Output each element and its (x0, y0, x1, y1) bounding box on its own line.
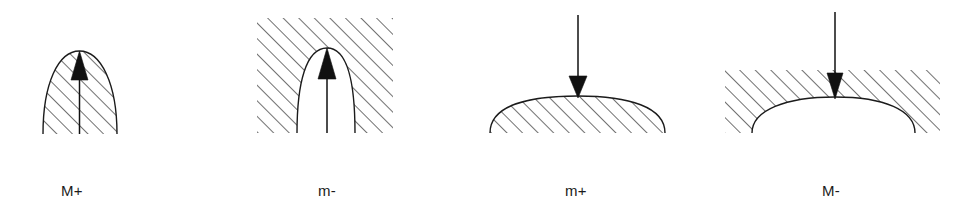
panel-label-m-minus: m- (318, 183, 336, 198)
panel-label-M-plus: M+ (61, 183, 83, 198)
panel-m-minus-graphic (250, 12, 400, 140)
normal-arrow-head-up-icon (318, 48, 336, 79)
diagram-canvas: M+ m- m+ M- (0, 0, 980, 223)
panel-label-M-minus: M- (822, 183, 840, 198)
panel-M-minus-graphic (718, 12, 946, 140)
normal-arrow-head-down-icon (569, 76, 587, 98)
panel-m-plus-graphic (480, 15, 680, 143)
hatch-fill-bullet (30, 40, 135, 145)
panel-M-plus-graphic (30, 40, 135, 145)
panel-label-m-plus: m+ (565, 183, 587, 198)
